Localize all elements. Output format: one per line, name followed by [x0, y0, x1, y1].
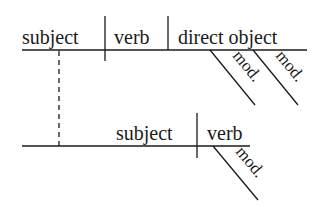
direct-object-label: direct object — [178, 26, 278, 49]
main-subject-label: subject — [22, 26, 79, 49]
main-verb-label: verb — [114, 26, 150, 48]
sub-subject-label: subject — [116, 122, 173, 145]
sub-verb-label: verb — [207, 122, 243, 144]
main-clause: subject verb direct object mod. mod. — [22, 16, 308, 105]
sentence-diagram: subject verb direct object mod. mod. sub… — [0, 0, 327, 207]
